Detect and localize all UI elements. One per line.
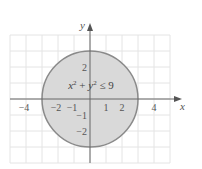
y-tick-label: −2 [76, 126, 87, 137]
y-tick-label: −1 [76, 110, 87, 121]
x-tick-label: 1 [104, 102, 109, 113]
x-tick-label: 2 [120, 102, 125, 113]
y-axis-label: y [79, 19, 85, 31]
x-tick-label: −2 [51, 102, 62, 113]
graph: x y −4−2−1124 2−1−2 x2 + y2 ≤ 9 [0, 0, 202, 169]
x-tick-label: 4 [152, 102, 157, 113]
x-axis-label: x [179, 100, 185, 112]
y-axis-arrow-icon [87, 23, 93, 31]
y-tick-label: 2 [82, 62, 87, 73]
x-tick-label: −4 [19, 102, 30, 113]
